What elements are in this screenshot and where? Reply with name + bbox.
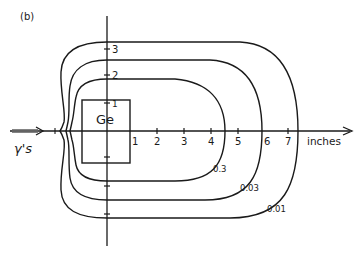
panel-label: (b) [20,11,34,22]
y-tick-label-2: 2 [112,70,118,81]
contour-label-0.03: 0.03 [240,183,259,193]
contour-label-0.3: 0.3 [213,164,227,174]
gamma-beam-label: γ's [14,141,32,156]
y-tick-label-1: 1 [112,99,118,109]
x-axis-unit-label: inches [307,135,341,147]
y-tick-label-3: 3 [112,44,118,55]
ge-detector-label: Ge [96,112,114,127]
contour-0.03 [66,60,262,200]
detector-sensitivity-contour-diagram: (b) Ge 1 2 3 1 2 3 4 5 6 7 inches [0,0,361,255]
x-tick-label-6: 6 [264,136,270,147]
x-tick-label-1: 1 [132,136,138,147]
x-tick-label-4: 4 [208,136,214,147]
x-tick-label-2: 2 [154,136,160,147]
contour-0.3 [70,79,225,181]
x-tick-label-7: 7 [285,136,291,147]
x-tick-label-3: 3 [181,136,187,147]
x-tick-label-5: 5 [235,136,241,147]
contour-label-0.01: 0.01 [267,204,286,214]
